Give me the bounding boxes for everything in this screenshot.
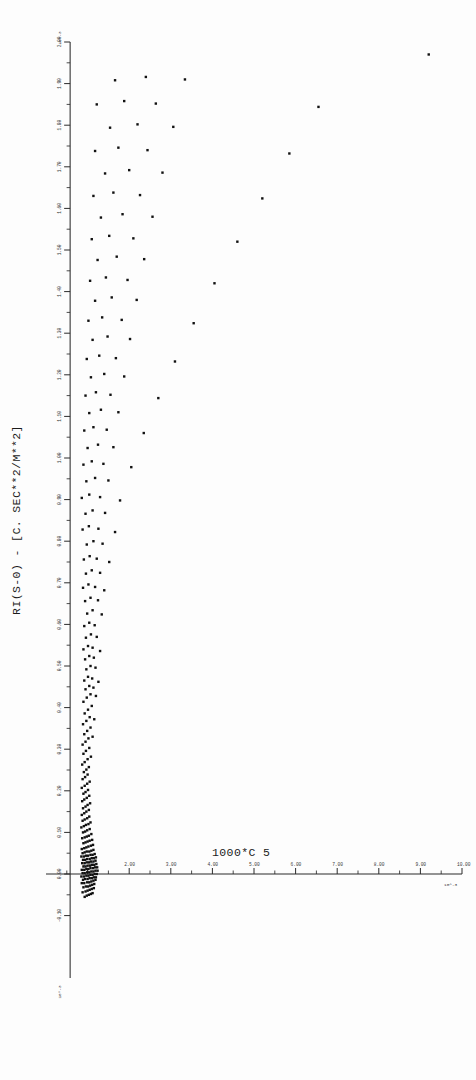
data-point <box>83 851 85 853</box>
x-tick-label: 6.00 <box>291 862 302 867</box>
data-point <box>87 789 89 791</box>
data-point <box>82 793 84 795</box>
data-point <box>151 216 153 218</box>
data-point <box>87 737 89 739</box>
data-point <box>85 768 87 770</box>
data-point <box>81 778 83 780</box>
data-point <box>117 146 119 148</box>
data-point <box>85 824 87 826</box>
data-point <box>96 866 98 868</box>
x-tick-label: 3.00 <box>166 862 177 867</box>
data-point <box>88 766 90 768</box>
data-point <box>94 150 96 152</box>
data-point <box>89 884 91 886</box>
data-points <box>80 53 430 898</box>
y-axis-exponent-top: 10^-3 <box>57 31 62 45</box>
scatter-plot-figure: 1.002.003.004.005.006.007.008.009.0010.0… <box>0 0 476 1080</box>
data-point <box>92 195 94 197</box>
y-tick-label: 1.80 <box>57 120 62 131</box>
data-point <box>92 860 94 862</box>
data-point <box>81 862 83 864</box>
data-point <box>100 216 102 218</box>
data-point <box>80 855 82 857</box>
data-point <box>83 896 85 898</box>
data-point <box>88 894 90 896</box>
data-point <box>86 696 88 698</box>
plot-canvas: 1.002.003.004.005.006.007.008.009.0010.0… <box>0 0 476 1080</box>
data-point <box>84 890 86 892</box>
data-point <box>99 496 101 498</box>
data-point <box>81 820 83 822</box>
data-point <box>91 509 93 511</box>
data-point <box>108 561 110 563</box>
x-tick-label: 4.00 <box>207 862 218 867</box>
data-point <box>109 394 111 396</box>
data-point <box>91 677 93 679</box>
data-point <box>91 888 93 890</box>
data-point <box>81 787 83 789</box>
data-point <box>103 589 105 591</box>
y-tick-label: 1.30 <box>57 328 62 339</box>
data-point <box>88 780 90 782</box>
y-tick-label: 1.20 <box>57 369 62 380</box>
data-point <box>135 299 137 301</box>
data-point <box>86 881 88 883</box>
data-point <box>96 636 98 638</box>
data-point <box>288 152 290 154</box>
data-point <box>85 874 87 876</box>
data-point <box>95 695 97 697</box>
data-point <box>86 878 88 880</box>
data-point <box>83 847 85 849</box>
data-point <box>86 829 88 831</box>
data-point <box>86 543 88 545</box>
data-point <box>85 668 87 670</box>
data-point <box>82 859 84 861</box>
y-tick-label: 1.00 <box>57 452 62 463</box>
data-point <box>91 460 93 462</box>
data-point <box>100 409 102 411</box>
data-point <box>89 874 91 876</box>
data-point <box>82 842 84 844</box>
y-tick-label: 1.90 <box>57 78 62 89</box>
data-point <box>83 712 85 714</box>
data-point <box>89 864 91 866</box>
data-point <box>91 609 93 611</box>
x-axis-exponent: 10^-3 <box>444 882 458 887</box>
data-point <box>87 854 89 856</box>
data-point <box>81 837 83 839</box>
y-tick-label: 1.40 <box>57 286 62 297</box>
data-point <box>88 850 90 852</box>
data-point <box>91 238 93 240</box>
data-point <box>82 886 84 888</box>
data-point <box>83 836 85 838</box>
data-point <box>121 319 123 321</box>
data-point <box>114 79 116 81</box>
data-point <box>94 477 96 479</box>
data-point <box>93 883 95 885</box>
data-point <box>91 884 93 886</box>
data-point <box>84 841 86 843</box>
data-point <box>123 375 125 377</box>
data-point <box>85 846 87 848</box>
data-point <box>94 666 96 668</box>
data-point <box>88 889 90 891</box>
data-point <box>172 126 174 128</box>
data-point <box>93 864 95 866</box>
data-point <box>88 493 90 495</box>
data-point <box>81 869 83 871</box>
data-point <box>112 191 114 193</box>
data-point <box>97 443 99 445</box>
data-point <box>184 78 186 80</box>
data-point <box>91 874 93 876</box>
data-point <box>87 823 89 825</box>
data-point <box>83 761 85 763</box>
data-point <box>94 859 96 861</box>
data-point <box>136 123 138 125</box>
data-point <box>87 885 89 887</box>
y-tick-label: 0.40 <box>57 702 62 713</box>
data-point <box>99 572 101 574</box>
data-point <box>87 868 89 870</box>
data-point <box>82 701 84 703</box>
data-point <box>98 354 100 356</box>
data-point <box>89 665 91 667</box>
